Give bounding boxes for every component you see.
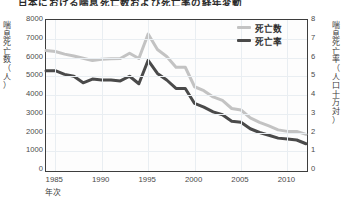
gridline-vertical	[148, 20, 149, 171]
axis-title-char: ）	[331, 117, 341, 126]
x-axis-tick-label: 2000	[177, 175, 211, 184]
x-axis-tick-label: 1990	[84, 175, 118, 184]
y-axis-right-tick-label: 7	[311, 34, 321, 42]
legend-item: 死亡数	[237, 21, 283, 34]
y-axis-left-tick-label: 7000	[17, 34, 43, 42]
gridline-horizontal	[46, 133, 307, 134]
y-axis-right-tick-label: 2	[311, 128, 321, 136]
y-axis-left-ticks: 800070006000500040003000200010000	[15, 19, 43, 172]
x-axis-tick-label: 2005	[223, 175, 257, 184]
legend-label: 死亡率	[255, 35, 283, 47]
y-axis-left-tick-label: 0	[17, 165, 43, 173]
legend-label: 死亡数	[255, 22, 283, 34]
y-axis-left-tick-label: 3000	[17, 109, 43, 117]
x-axis-title: 年次	[45, 186, 61, 197]
y-axis-right-ticks: 876543210	[311, 19, 323, 172]
gridline-vertical	[55, 20, 56, 171]
y-axis-left-tick-label: 6000	[17, 53, 43, 61]
gridline-horizontal	[46, 151, 307, 152]
y-axis-left-tick-label: 4000	[17, 90, 43, 98]
y-axis-left-title: 喘息死亡数（人）	[2, 22, 12, 91]
y-axis-right-tick-label: 0	[311, 165, 321, 173]
x-axis-tick-label: 1985	[37, 175, 71, 184]
gridline-horizontal	[46, 114, 307, 115]
chart-title: 日本における喘息死亡数および死亡率の経年変動	[18, 0, 348, 6]
y-axis-left-tick-label: 2000	[17, 128, 43, 136]
x-axis-tick-label: 1995	[130, 175, 164, 184]
chart-figure: 日本における喘息死亡数および死亡率の経年変動 喘息死亡数（人） 喘息死亡率（人口…	[0, 0, 351, 202]
gridline-vertical	[287, 20, 288, 171]
y-axis-right-tick-label: 5	[311, 71, 321, 79]
line-series-rate	[46, 60, 306, 143]
axis-title-char: ）	[2, 82, 12, 91]
chart-legend: 死亡数死亡率	[237, 21, 283, 47]
y-axis-right-tick-label: 3	[311, 109, 321, 117]
legend-item: 死亡率	[237, 34, 283, 47]
x-axis-tick-label: 2010	[269, 175, 303, 184]
gridline-horizontal	[46, 95, 307, 96]
y-axis-left-tick-label: 8000	[17, 15, 43, 23]
y-axis-left-tick-label: 1000	[17, 146, 43, 154]
y-axis-right-title: 喘息死亡率（人口十万対）	[331, 22, 341, 125]
gridline-horizontal	[46, 58, 307, 59]
gridline-vertical	[102, 20, 103, 171]
y-axis-right-tick-label: 4	[311, 90, 321, 98]
y-axis-right-tick-label: 8	[311, 15, 321, 23]
y-axis-right-tick-label: 6	[311, 53, 321, 61]
line-series-deaths	[46, 34, 306, 134]
gridline-vertical	[195, 20, 196, 171]
legend-swatch-icon	[237, 26, 251, 29]
gridline-horizontal	[46, 76, 307, 77]
legend-swatch-icon	[237, 39, 251, 42]
y-axis-right-tick-label: 1	[311, 146, 321, 154]
y-axis-left-tick-label: 5000	[17, 71, 43, 79]
